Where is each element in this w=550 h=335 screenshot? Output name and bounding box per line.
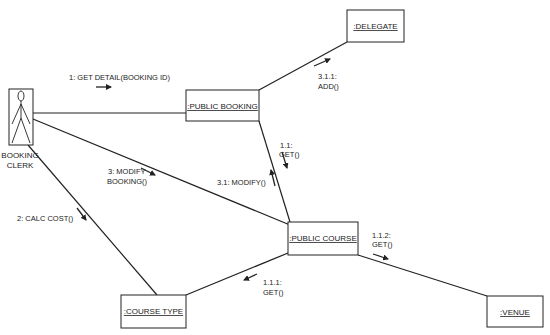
actor-booking-clerk: BOOKING CLERK (1, 89, 38, 170)
actor-name-line1: BOOKING (1, 151, 38, 160)
message-1-1-label-line2: GET() (279, 150, 300, 159)
arrow-down-right-icon (77, 208, 86, 220)
arrow-down-right-icon (373, 254, 388, 259)
object-label: :PUBLIC COURSE (289, 234, 357, 243)
object-label: :DELEGATE (353, 22, 397, 31)
message-3-1-1-label-line2: ADD() (318, 82, 339, 91)
object-label: :PUBLIC BOOKING (187, 102, 258, 111)
object-label: :VENUE (500, 308, 530, 317)
actor-name-line2: CLERK (7, 161, 34, 170)
message-1-1-2-label-line2: GET() (372, 240, 393, 249)
object-public-booking[interactable]: :PUBLIC BOOKING (186, 90, 259, 121)
link-clerk-public-course (33, 119, 290, 225)
message-1-1-2-label-line1: 1.1.2: (372, 231, 391, 240)
object-public-course[interactable]: :PUBLIC COURSE (288, 222, 358, 255)
message-1-1-1-label-line1: 1.1.1: (263, 278, 282, 287)
message-1-label: 1: GET DETAIL(BOOKING ID) (69, 73, 170, 82)
link-public-booking-public-course (259, 121, 290, 222)
arrow-down-left-icon (244, 274, 257, 280)
message-3-1-1-label-line1: 3.1.1: (318, 72, 337, 81)
message-2-label: 2: CALC COST() (17, 214, 74, 223)
object-course-type[interactable]: :COURSE TYPE (121, 295, 186, 328)
collaboration-diagram: BOOKING CLERK :PUBLIC BOOKING :DELEGATE … (0, 0, 550, 335)
message-1-1-1-label-line2: GET() (263, 288, 284, 297)
object-venue[interactable]: :VENUE (487, 296, 543, 327)
message-3-1-label: 3.1: MODIFY() (217, 178, 266, 187)
object-delegate[interactable]: :DELEGATE (347, 10, 404, 42)
message-1-1-label-line1: 1.1: (280, 141, 293, 150)
arrow-up-right-icon (314, 59, 330, 66)
message-3-label-line1: 3: MODIFY (108, 167, 146, 176)
object-label: :COURSE TYPE (124, 307, 183, 316)
message-3-label-line2: BOOKING() (107, 177, 148, 186)
link-public-course-venue (358, 255, 487, 296)
